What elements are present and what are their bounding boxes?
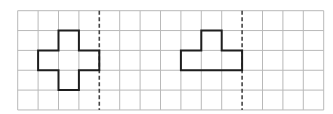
- cross-shape: [38, 31, 99, 91]
- grid-lines: [18, 11, 324, 110]
- grid-diagram: [0, 0, 333, 114]
- symmetry-axes: [99, 11, 242, 110]
